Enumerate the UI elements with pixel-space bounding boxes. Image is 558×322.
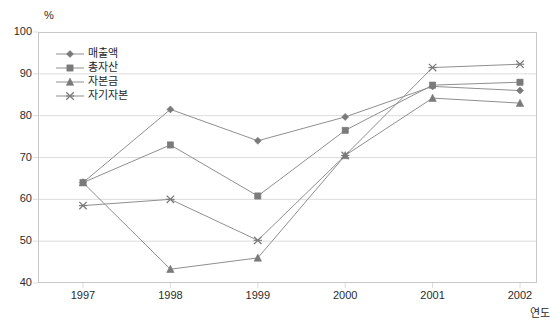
y-axis-unit-label: % [44, 9, 54, 21]
legend-marker-x-icon [55, 88, 85, 100]
y-axis-tick-label: 70 [0, 151, 32, 163]
x-axis-tick-label: 2001 [403, 289, 463, 301]
y-axis-tick-label: 90 [0, 67, 32, 79]
y-axis-tick-label: 40 [0, 276, 32, 288]
x-axis-tick-label: 1998 [140, 289, 200, 301]
y-axis-tick-label: 80 [0, 109, 32, 121]
y-axis-tick-label: 60 [0, 192, 32, 204]
x-axis-tick-label: 1999 [228, 289, 288, 301]
legend-marker-diamond-icon [55, 46, 85, 58]
x-axis-title: 연도 [530, 304, 550, 320]
chart-legend: 매출액총자산자본금자기자본 [55, 45, 128, 101]
legend-marker-square-icon [55, 60, 85, 72]
line-chart: % 405060708090100 1997199819992000200120… [0, 0, 558, 322]
legend-item-3[interactable]: 자본금 [55, 73, 128, 87]
legend-item-2[interactable]: 총자산 [55, 59, 128, 73]
legend-marker-triangle-icon [55, 74, 85, 86]
legend-label: 자기자본 [88, 86, 128, 102]
legend-item-1[interactable]: 매출액 [55, 45, 128, 59]
x-axis-tick-label: 2002 [490, 289, 550, 301]
y-axis-tick-label: 100 [0, 25, 32, 37]
y-axis-tick-label: 50 [0, 234, 32, 246]
legend-item-4[interactable]: 자기자본 [55, 87, 128, 101]
x-axis-tick-label: 1997 [53, 289, 113, 301]
x-axis-tick-label: 2000 [315, 289, 375, 301]
